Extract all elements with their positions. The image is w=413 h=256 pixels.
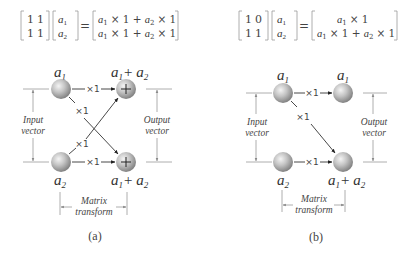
input-node-a1 — [273, 83, 293, 103]
sum-node-2 — [116, 152, 136, 172]
matrix-diagram: 1 1 1 1 a1 a2 = a1× 1 +a2× 1 a1× 1 +a2× … — [0, 0, 413, 256]
matrix-entry: 1 — [255, 27, 262, 40]
edges-a: ×1 ×1 ×1 ×1 — [69, 84, 118, 167]
output-label: Output — [144, 115, 171, 125]
weight-label: ×1 — [86, 84, 99, 94]
matrix-label: Matrix — [300, 194, 328, 204]
result-row-2: a1× 1 +a2× 1 — [98, 27, 176, 41]
input-label-a2: a2 — [277, 172, 290, 190]
equals-sign: = — [80, 19, 90, 33]
equation-b: 1 0 1 1 a1 a2 = a1× 1 a1× 1 +a2× 1 — [239, 11, 397, 41]
input-node-a1 — [51, 79, 71, 99]
matrix-transform-bracket: Matrix transform — [60, 192, 127, 217]
vector-entry: a2 — [277, 27, 287, 41]
output-label: Output — [361, 117, 388, 127]
output-label-2: a1+a2 — [328, 172, 366, 190]
vector-entry: a2 — [58, 27, 68, 41]
weight-label: ×1 — [75, 106, 88, 116]
vector-entry: a1 — [277, 13, 287, 27]
weight-label: ×1 — [305, 157, 318, 167]
caption-a: (a) — [88, 229, 101, 243]
output-label-1: a1+a2 — [111, 64, 149, 82]
transform-label: transform — [295, 205, 333, 215]
caption-b: (b) — [309, 230, 323, 244]
input-label: Input — [246, 117, 267, 127]
weight-label: ×1 — [75, 139, 88, 149]
matrix-entry: 0 — [255, 13, 262, 26]
output-vector-bracket: Output vector — [144, 89, 172, 162]
weight-label: ×1 — [305, 88, 318, 98]
matrix-entry: 1 — [37, 13, 44, 26]
edges-b: ×1 ×1 ×1 — [291, 88, 335, 167]
input-label: Input — [22, 115, 43, 125]
equals-sign: = — [299, 19, 309, 33]
output-label-2: a1+a2 — [111, 172, 149, 190]
input-node-a2 — [273, 152, 293, 172]
equation-a: 1 1 1 1 a1 a2 = a1× 1 +a2× 1 a1× 1 +a2× … — [21, 11, 178, 41]
input-vector-bracket: Input vector — [245, 93, 272, 162]
result-row-1: a1× 1 — [337, 13, 369, 27]
input-vector-bracket: Input vector — [21, 89, 49, 162]
panel-b: 1 0 1 1 a1 a2 = a1× 1 a1× 1 +a2× 1 a1 a1… — [239, 11, 397, 244]
matrix-entry: 1 — [37, 27, 44, 40]
input-node-a2 — [51, 152, 71, 172]
weight-label: ×1 — [86, 157, 99, 167]
sum-node-1 — [116, 79, 136, 99]
output-node-1 — [333, 83, 353, 103]
output-label-1: a1 — [337, 67, 349, 85]
input-label-a1: a1 — [277, 67, 289, 85]
matrix-label: Matrix — [80, 196, 108, 206]
transform-label: transform — [75, 207, 113, 217]
result-row-2: a1× 1 +a2× 1 — [317, 27, 395, 41]
matrix-entry: 1 — [27, 27, 34, 40]
vector-label: vector — [145, 126, 169, 136]
output-vector-bracket: Output vector — [361, 93, 388, 162]
result-row-1: a1× 1 +a2× 1 — [98, 13, 176, 27]
matrix-entry: 1 — [245, 27, 252, 40]
matrix-entry: 1 — [245, 13, 252, 26]
panel-a: 1 1 1 1 a1 a2 = a1× 1 +a2× 1 a1× 1 +a2× … — [21, 11, 178, 243]
output-node-2 — [333, 152, 353, 172]
input-label-a2: a2 — [54, 172, 67, 190]
vector-label: vector — [362, 128, 386, 138]
vector-label: vector — [21, 126, 45, 136]
vector-label: vector — [245, 128, 269, 138]
vector-entry: a1 — [58, 13, 68, 27]
weight-label: ×1 — [296, 112, 309, 122]
matrix-entry: 1 — [27, 13, 34, 26]
matrix-transform-bracket: Matrix transform — [282, 190, 345, 215]
